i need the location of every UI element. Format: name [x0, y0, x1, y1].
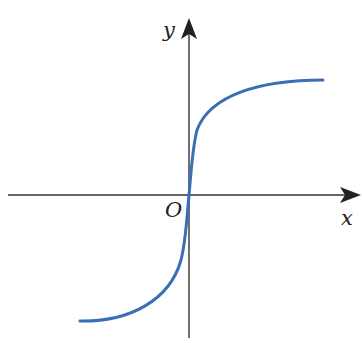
function-graph: y x O [0, 0, 362, 343]
function-curve [80, 80, 323, 321]
origin-label: O [165, 198, 182, 222]
x-axis-label: x [341, 206, 353, 230]
y-axis-label: y [162, 18, 176, 42]
